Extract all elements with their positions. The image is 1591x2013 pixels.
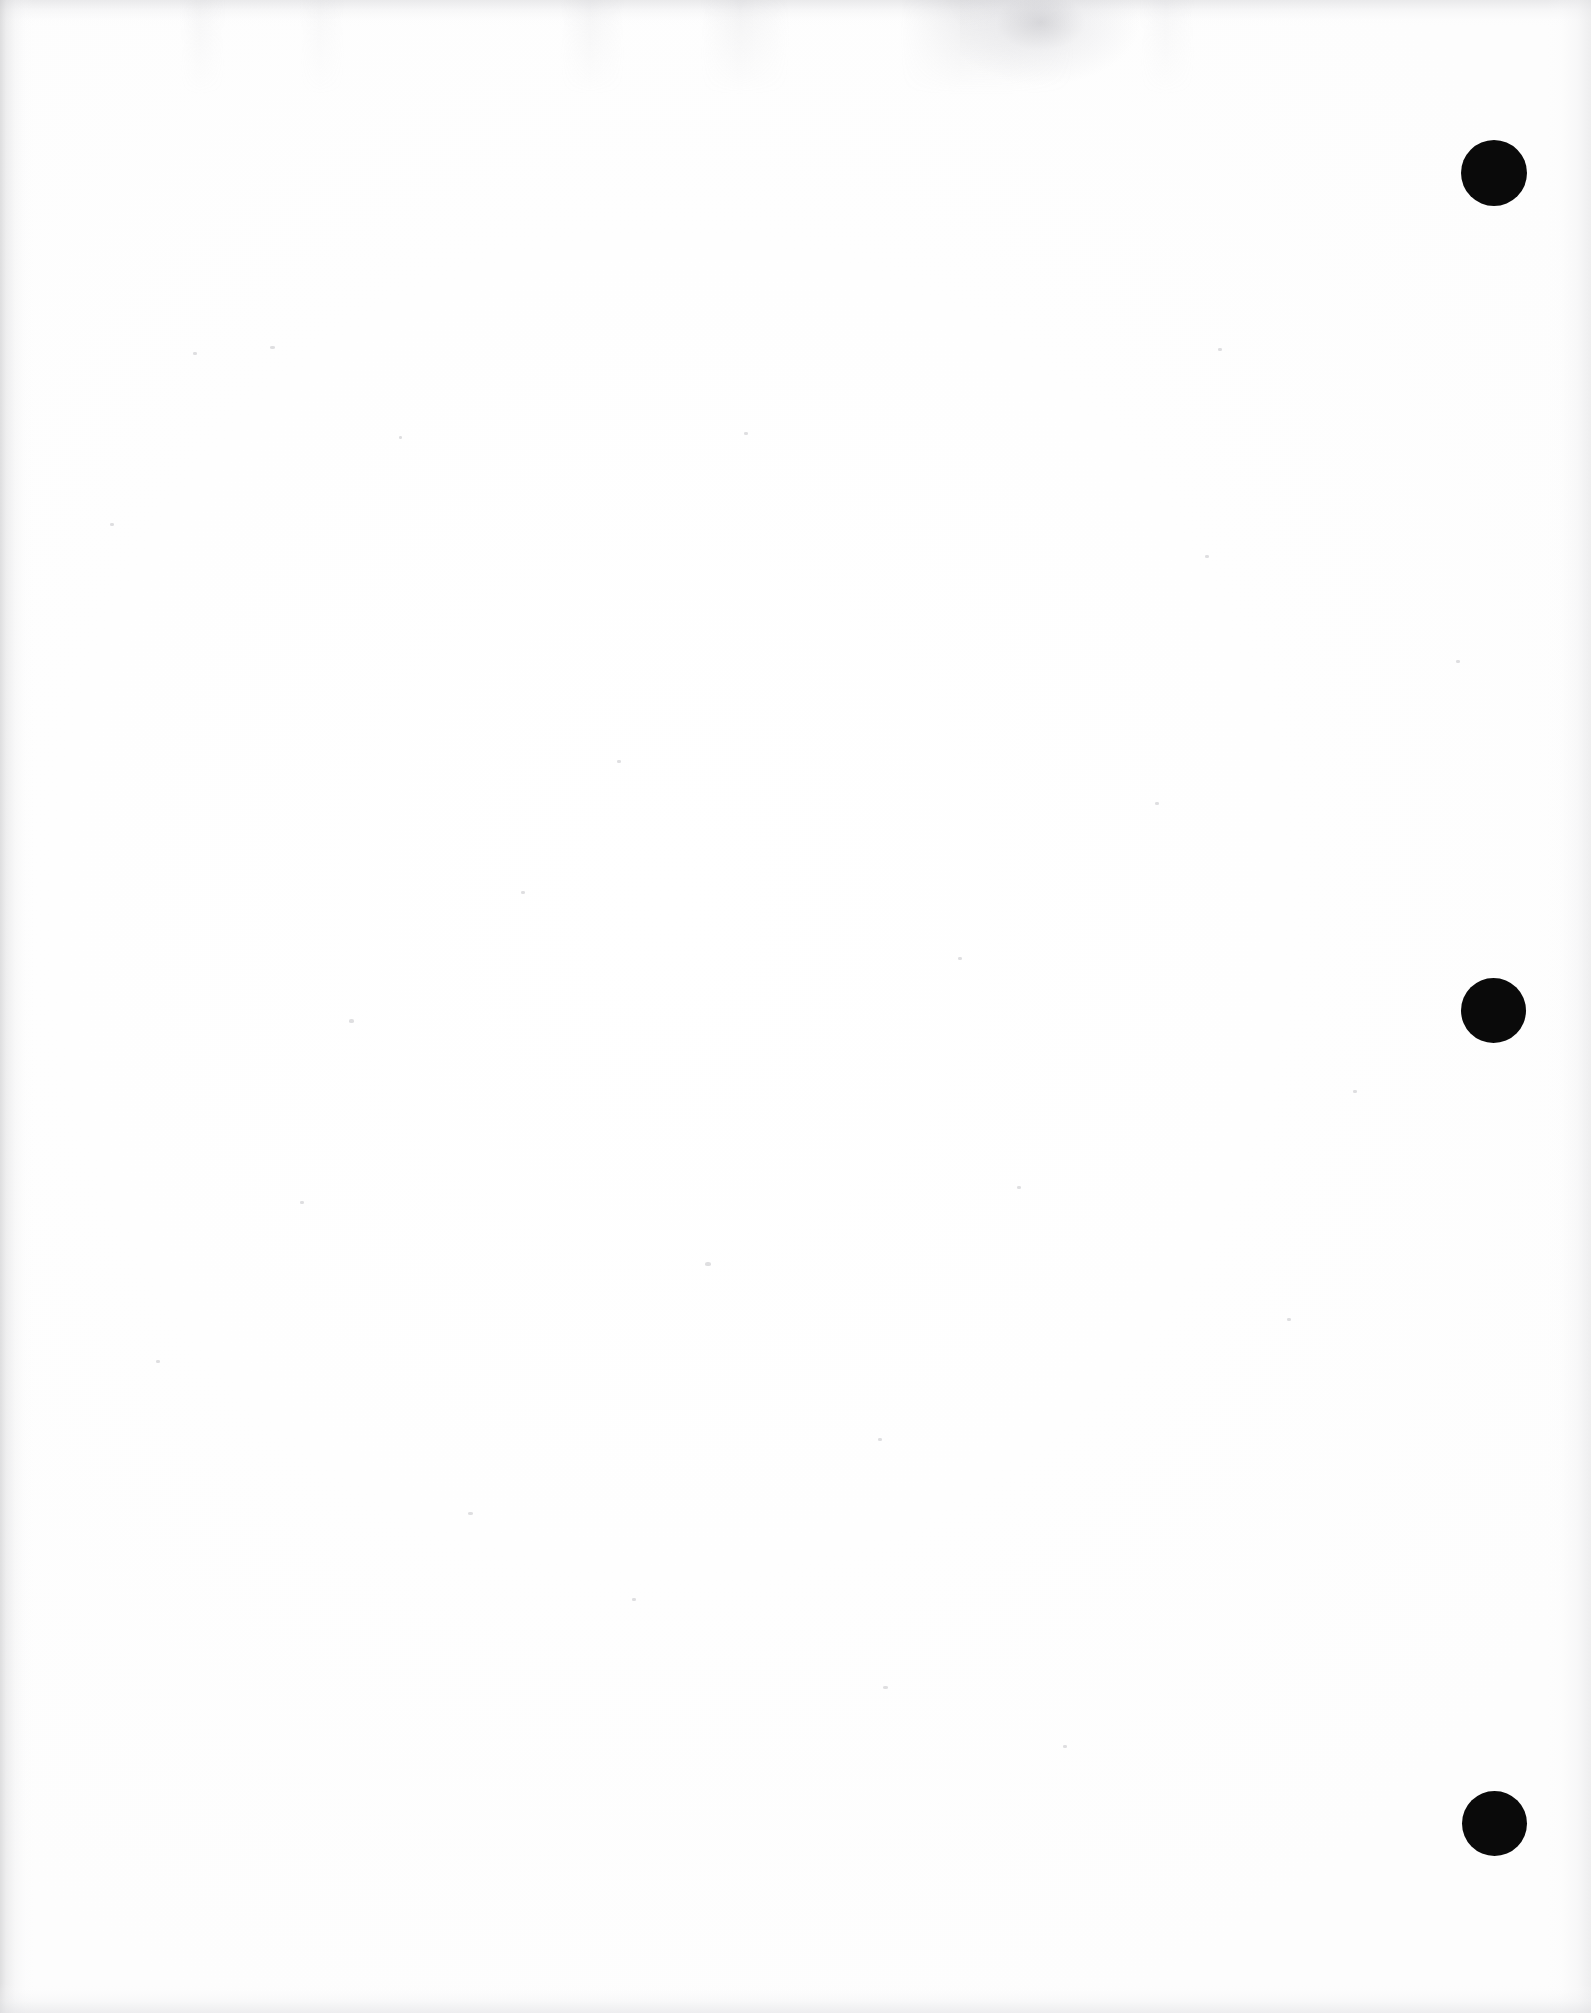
dust-speck (705, 1262, 711, 1266)
scan-smudge-artifact (960, 0, 1140, 90)
scan-edge-shadow-bottom (0, 1983, 1591, 2013)
dust-speck (270, 346, 275, 349)
dust-speck (958, 957, 962, 960)
dust-speck (300, 1201, 304, 1204)
dust-speck (1353, 1090, 1357, 1093)
dust-speck (468, 1512, 473, 1515)
dust-speck (1287, 1318, 1291, 1321)
dust-speck (1017, 1186, 1021, 1189)
dust-speck (1063, 1745, 1067, 1748)
registration-mark-top (1461, 140, 1527, 206)
dust-speck (349, 1019, 354, 1023)
dust-speck (193, 352, 197, 355)
paper-background (0, 0, 1591, 2013)
scan-edge-shadow-right (1545, 0, 1591, 2013)
scan-streak-artifacts (0, 0, 1591, 95)
registration-mark-bottom (1462, 1791, 1527, 1856)
dust-speck (632, 1598, 636, 1601)
dust-speck (110, 523, 114, 526)
dust-speck (399, 436, 402, 439)
dust-speck (744, 432, 748, 435)
scan-edge-shadow-left (0, 0, 34, 2013)
scanned-page (0, 0, 1591, 2013)
dust-speck (1155, 802, 1159, 805)
dust-speck (1456, 660, 1460, 663)
dust-speck (883, 1686, 888, 1689)
dust-speck (156, 1360, 160, 1363)
registration-mark-middle (1461, 978, 1526, 1043)
dust-speck (878, 1438, 882, 1441)
dust-speck (1205, 555, 1209, 558)
dust-speck (617, 760, 621, 763)
dust-speck (521, 891, 525, 894)
dust-speck (1218, 348, 1222, 351)
